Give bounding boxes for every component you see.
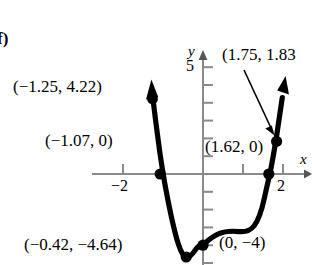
part-label: f) bbox=[0, 30, 8, 47]
point-label-p5: (1.62, 0) bbox=[205, 138, 263, 155]
curve-right-arrowhead bbox=[277, 76, 289, 95]
point-marker-p3 bbox=[181, 251, 192, 262]
point-marker-p5 bbox=[263, 168, 274, 179]
graph-figure: f) (−1.25, 4.22) (−1.07, 0) (−0.42, −4.6… bbox=[0, 0, 312, 265]
y-tick-label-5: 5 bbox=[186, 58, 194, 74]
point-label-p2: (−1.07, 0) bbox=[45, 132, 113, 149]
point-label-p4: (0, −4) bbox=[219, 234, 265, 251]
x-tick-label-2: 2 bbox=[277, 178, 285, 194]
leader-arrowhead bbox=[265, 125, 274, 135]
point-label-p6: (1.75, 1.83 bbox=[222, 46, 296, 63]
x-axis-label: x bbox=[300, 152, 307, 167]
x-tick-label-neg-2: −2 bbox=[111, 178, 128, 194]
leader-arrow-line bbox=[244, 70, 271, 128]
y-axis-arrowhead bbox=[199, 50, 208, 60]
axes-group bbox=[92, 50, 312, 265]
point-marker-p2 bbox=[155, 168, 166, 179]
x-axis-arrowhead bbox=[304, 170, 312, 179]
point-marker-p4 bbox=[197, 240, 208, 251]
point-label-p1: (−1.25, 4.22) bbox=[13, 78, 102, 95]
curve-group bbox=[146, 76, 289, 258]
point-label-p3: (−0.42, −4.64) bbox=[24, 236, 123, 253]
leader-arrow-group bbox=[244, 70, 275, 136]
point-marker-p1 bbox=[147, 94, 158, 105]
point-marker-p6 bbox=[271, 136, 282, 147]
